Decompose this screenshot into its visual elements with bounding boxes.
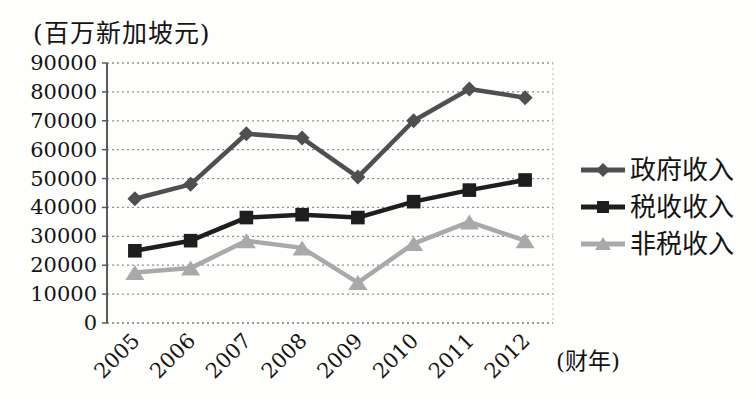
legend-square-icon bbox=[580, 198, 626, 216]
y-axis-tick-label: 80000 bbox=[30, 80, 97, 104]
x-axis-unit-label: (财年) bbox=[556, 342, 620, 376]
y-axis-tick-label: 60000 bbox=[30, 138, 97, 162]
data-point-marker-square bbox=[295, 208, 309, 222]
data-point-marker-square bbox=[240, 211, 254, 225]
x-axis-tick-label: 2012 bbox=[480, 329, 535, 384]
data-point-marker-square bbox=[518, 173, 532, 187]
data-point-marker-diamond bbox=[518, 90, 533, 105]
legend-diamond-icon bbox=[580, 161, 626, 179]
y-axis-tick-label: 40000 bbox=[30, 195, 97, 219]
legend-item-non-tax-revenue: 非税收入 bbox=[580, 225, 734, 262]
fiscal-revenue-line-chart-figure: (百万新加坡元) 0100002000030000400005000060000… bbox=[0, 0, 755, 402]
data-point-marker-square bbox=[463, 183, 477, 197]
x-axis-tick-label: 2008 bbox=[257, 329, 312, 384]
x-axis-tick-label: 2006 bbox=[145, 329, 200, 384]
legend-label: 税收收入 bbox=[630, 194, 734, 220]
x-axis-tick-label: 2011 bbox=[424, 329, 479, 384]
data-point-marker-square bbox=[184, 234, 198, 248]
data-point-marker-square bbox=[128, 244, 142, 258]
legend-triangle-icon bbox=[580, 235, 626, 253]
x-axis-tick-label: 2009 bbox=[313, 329, 368, 384]
data-point-marker-square bbox=[351, 211, 365, 225]
data-point-marker-square bbox=[407, 195, 421, 209]
x-axis-tick-label: 2005 bbox=[90, 329, 145, 384]
legend-item-tax-revenue: 税收收入 bbox=[580, 188, 734, 225]
data-point-marker-diamond bbox=[127, 191, 142, 206]
y-axis-tick-label: 30000 bbox=[30, 224, 97, 248]
y-axis-tick-label: 20000 bbox=[30, 253, 97, 277]
x-axis-tick-label: 2007 bbox=[201, 329, 256, 384]
y-axis-tick-label: 50000 bbox=[30, 167, 97, 191]
legend-label: 非税收入 bbox=[630, 231, 734, 257]
legend-label: 政府收入 bbox=[630, 157, 734, 183]
x-axis-tick-label: 2010 bbox=[368, 329, 423, 384]
y-axis-tick-label: 70000 bbox=[30, 109, 97, 133]
legend: 政府收入税收收入非税收入 bbox=[580, 151, 734, 262]
y-axis-tick-label: 0 bbox=[84, 311, 97, 335]
legend-item-government-revenue: 政府收入 bbox=[580, 151, 734, 188]
y-axis-tick-label: 90000 bbox=[30, 51, 97, 75]
data-point-marker-triangle bbox=[404, 236, 423, 251]
y-axis-tick-label: 10000 bbox=[30, 282, 97, 306]
